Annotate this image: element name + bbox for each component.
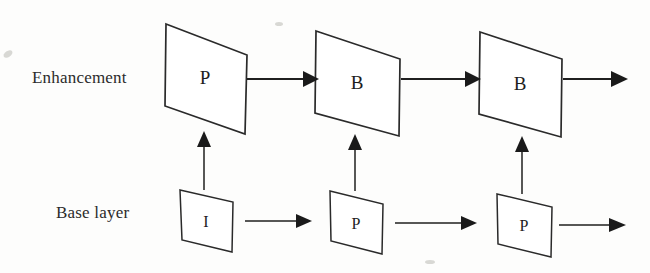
scan-speck-icon xyxy=(2,49,14,60)
base-node-1-label: I xyxy=(203,213,208,230)
arrow-base3-to-next-head-icon xyxy=(609,218,626,232)
enhancement-node-3-label: B xyxy=(514,73,527,94)
scan-speck-icon xyxy=(425,260,435,264)
arrow-base2-to-enh2-head-icon xyxy=(348,134,362,150)
enhancement-node-1-label: P xyxy=(200,67,211,88)
scan-speck-icon xyxy=(275,22,283,26)
arrow-enh3-to-next-head-icon xyxy=(611,71,628,87)
arrow-base2-to-base3-head-icon xyxy=(461,216,477,230)
base-node-2-label: P xyxy=(352,215,361,232)
arrow-base1-to-base2-head-icon xyxy=(296,214,312,228)
arrow-base3-to-enh3-head-icon xyxy=(515,136,529,152)
base-node-3-label: P xyxy=(520,217,529,234)
enhancement-node-2-label: B xyxy=(351,72,364,93)
arrow-base1-to-enh1-head-icon xyxy=(197,131,211,147)
diagram-graphics: P B B I P P xyxy=(0,0,650,273)
diagram-canvas: Enhancement Base layer P B B I P P xyxy=(0,0,650,273)
